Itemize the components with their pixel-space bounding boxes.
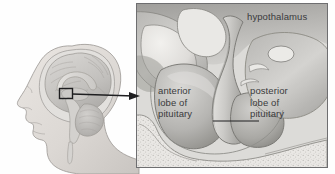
cerebellum — [75, 104, 103, 136]
label-posterior-lobe: posterior lobe of pituitary — [250, 85, 288, 120]
spinal-cord — [68, 142, 73, 164]
head-profile-svg — [0, 0, 140, 174]
head-profile-panel — [0, 0, 140, 174]
label-hypothalamus: hypothalamus — [247, 11, 307, 23]
mammillary-body — [268, 46, 294, 62]
label-anterior-lobe: anterior lobe of pituitary — [158, 85, 192, 120]
anatomy-figure: hypothalamus anterior lobe of pituitary … — [0, 0, 335, 174]
